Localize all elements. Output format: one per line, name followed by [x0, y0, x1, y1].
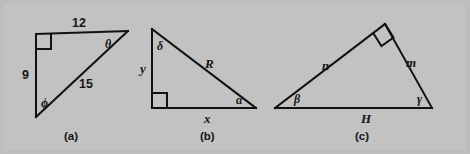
triangle-a-leg-top [36, 31, 128, 34]
label-side-m: m [406, 56, 416, 69]
triangle-c-side-n [275, 24, 385, 108]
label-angle-alpha: α [236, 94, 243, 106]
label-side-n: n [322, 59, 329, 72]
caption-b: (b) [200, 131, 215, 143]
triangle-b-right-angle-marker [152, 93, 167, 108]
label-side-9: 9 [22, 69, 29, 82]
label-side-15: 15 [79, 78, 93, 91]
caption-c: (c) [355, 131, 369, 143]
triangle-a [36, 31, 128, 117]
triangle-a-hypotenuse [36, 31, 128, 117]
label-side-H: H [361, 112, 371, 125]
label-side-y: y [140, 62, 146, 75]
label-side-12: 12 [72, 17, 86, 30]
label-angle-phi: ϕ [41, 97, 48, 109]
label-angle-beta: β [294, 93, 300, 105]
geometry-figure: 12 9 15 θ ϕ (a) y x R δ α (b) n m H β γ … [0, 0, 470, 154]
label-side-R: R [205, 57, 214, 70]
triangle-a-right-angle-marker [36, 34, 51, 50]
label-angle-theta: θ [105, 38, 111, 50]
label-side-x: x [204, 112, 211, 125]
label-angle-gamma: γ [417, 93, 422, 105]
caption-a: (a) [64, 131, 78, 143]
label-angle-delta: δ [157, 40, 163, 52]
